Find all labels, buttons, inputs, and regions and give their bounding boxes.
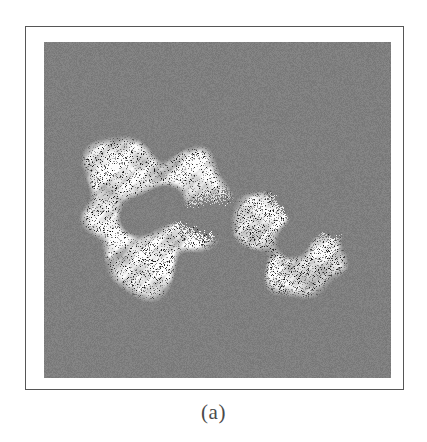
figure-frame-border — [25, 26, 404, 390]
lung-segmentation-image-panel — [44, 42, 391, 378]
figure-caption-label: (a) — [0, 398, 427, 426]
lung-scan-canvas — [44, 42, 391, 378]
figure-container: (a) — [0, 0, 427, 442]
